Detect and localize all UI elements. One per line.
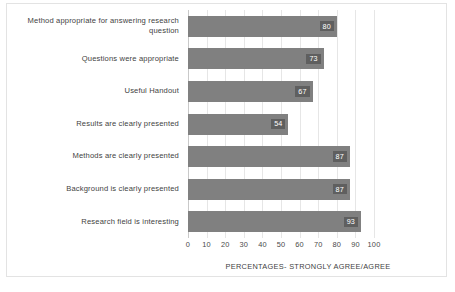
category-label-questions-appropriate: Questions were appropriate [82,54,183,64]
bar-value-label: 67 [295,86,309,96]
category-label-row: Research field is interesting [15,205,183,238]
category-label-row: Questions were appropriate [15,43,183,76]
x-axis-ticks: 0102030405060708090100 [188,240,374,254]
bar-value-label: 87 [333,184,347,194]
bar-row: 87 [188,173,374,206]
category-label-row: Background is clearly presented [15,173,183,206]
chart-figure: Method appropriate for answering researc… [0,0,455,292]
bar-value-label: 93 [344,217,358,227]
bar[interactable]: 54 [188,114,288,135]
x-axis-tick-label: 70 [314,240,323,249]
bar[interactable]: 87 [188,179,350,200]
category-label-row: Method appropriate for answering researc… [15,10,183,43]
bar-value-label: 80 [320,21,334,31]
x-axis-title: PERCENTAGES- STRONGLY AGREE/AGREE [188,262,428,271]
bar-row: 87 [188,140,374,173]
bar-value-label: 73 [306,54,320,64]
x-axis-tick-label: 20 [221,240,230,249]
category-label-line2: question [149,26,179,35]
category-label-method-appropriate: Method appropriate for answering researc… [28,16,183,37]
category-label-methods-presented: Methods are clearly presented [72,151,183,161]
x-axis-tick-label: 80 [333,240,342,249]
category-label-row: Methods are clearly presented [15,140,183,173]
gridline [374,10,375,238]
x-axis-tick-label: 30 [240,240,249,249]
bar-value-label: 54 [271,119,285,129]
bar[interactable]: 67 [188,81,313,102]
x-axis-tick-label: 60 [295,240,304,249]
category-label-background-presented: Background is clearly presented [66,184,183,194]
x-axis-tick-label: 90 [351,240,360,249]
category-axis-labels: Method appropriate for answering researc… [15,10,183,238]
bar-row: 54 [188,108,374,141]
bar[interactable]: 93 [188,211,361,232]
plot-area: 80736754878793 [188,10,374,238]
x-axis-tick-label: 50 [277,240,286,249]
category-label-research-interesting: Research field is interesting [81,217,183,227]
x-axis-tick-label: 10 [202,240,211,249]
x-axis-tick-label: 40 [258,240,267,249]
bar-value-label: 87 [333,151,347,161]
bar-row: 73 [188,43,374,76]
x-axis-tick-label: 100 [368,240,381,249]
bar-series: 80736754878793 [188,10,374,238]
bar[interactable]: 80 [188,16,337,37]
category-label-row: Useful Handout [15,75,183,108]
category-label-results-presented: Results are clearly presented [76,119,183,129]
category-label-useful-handout: Useful Handout [125,86,183,96]
bar[interactable]: 73 [188,48,324,69]
category-label-line1: Method appropriate for answering researc… [28,16,179,25]
x-axis-tick-label: 0 [186,240,190,249]
bar-row: 93 [188,205,374,238]
chart-frame: Method appropriate for answering researc… [6,3,447,277]
bar-row: 80 [188,10,374,43]
bar[interactable]: 87 [188,146,350,167]
bar-row: 67 [188,75,374,108]
category-label-row: Results are clearly presented [15,108,183,141]
